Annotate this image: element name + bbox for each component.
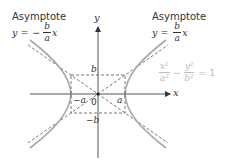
left-asymptote-equation: y = − b a x: [12, 22, 57, 43]
origin-label: 0: [91, 98, 97, 107]
eq-lhs: y =: [12, 27, 28, 38]
term1-numerator: x²: [159, 62, 170, 73]
point-b-label: b: [91, 65, 97, 74]
point-neg-a-label: −a: [73, 96, 86, 105]
right-asymptote-equation: y = b a x: [152, 22, 187, 43]
term2-denominator: b²: [184, 73, 193, 83]
slope-denominator: a: [175, 33, 180, 43]
eq-sign: −: [32, 27, 40, 38]
slope-denominator: a: [45, 33, 50, 43]
point-a-label: a: [117, 96, 122, 105]
equals-one: = 1: [198, 67, 215, 78]
term2-numerator: y²: [184, 62, 195, 73]
term1-fraction: x² a²: [159, 62, 170, 83]
hyperbola-equation: x² a² − y² b² = 1: [158, 62, 215, 83]
minus-sign: −: [173, 67, 181, 78]
eq-var: x: [52, 27, 57, 38]
slope-fraction: b a: [43, 22, 51, 43]
x-axis-label: x: [173, 88, 179, 98]
slope-numerator: b: [173, 22, 181, 33]
eq-var: x: [182, 27, 187, 38]
eq-lhs: y =: [152, 27, 168, 38]
point-neg-b-label: −b: [86, 116, 99, 125]
slope-fraction: b a: [173, 22, 181, 43]
left-asymptote-title: Asymptote: [12, 12, 66, 22]
origin-point: [96, 92, 99, 95]
slope-numerator: b: [43, 22, 51, 33]
term2-fraction: y² b²: [184, 62, 195, 83]
term1-denominator: a²: [160, 73, 169, 83]
y-axis-label: y: [94, 13, 100, 23]
